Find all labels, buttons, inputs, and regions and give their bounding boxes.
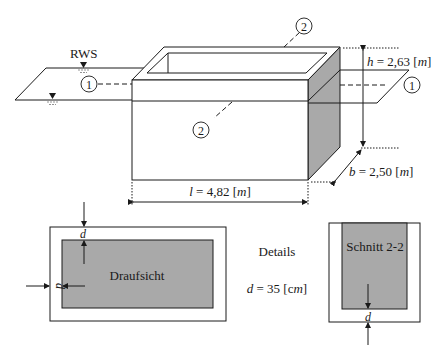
box-front-face bbox=[132, 80, 308, 180]
section-mark-2-bottom-label: 2 bbox=[198, 124, 204, 138]
water-level-label: RWS bbox=[70, 46, 97, 61]
width-label: b = 2,50 [m] bbox=[349, 164, 413, 179]
length-label: l = 4,82 [m] bbox=[189, 184, 251, 199]
plan-thickness-top-label: d bbox=[80, 227, 87, 241]
plan-view-label: Draufsicht bbox=[110, 268, 165, 283]
caisson-diagram: RWS 1 1 2 2 h = 2,63 [m] bbox=[0, 0, 443, 359]
section-mark-1-right-label: 1 bbox=[409, 79, 415, 93]
water-level-symbol-upper bbox=[78, 62, 89, 73]
section-thickness-label: d bbox=[365, 310, 372, 324]
thickness-value: d = 35 [cm] bbox=[247, 281, 307, 296]
plan-view bbox=[26, 202, 226, 321]
water-level-symbol-lower bbox=[47, 93, 58, 105]
section-view-label: Schnitt 2-2 bbox=[346, 239, 403, 254]
height-label: h = 2,63 [m] bbox=[367, 54, 431, 69]
box-top-rim bbox=[132, 47, 340, 80]
details-heading: Details bbox=[259, 244, 296, 259]
plan-thickness-side-label: d bbox=[53, 283, 67, 290]
section-mark-1-left-label: 1 bbox=[86, 78, 92, 92]
section-mark-2-top-label: 2 bbox=[301, 20, 307, 34]
section-line-2-top bbox=[284, 32, 300, 47]
